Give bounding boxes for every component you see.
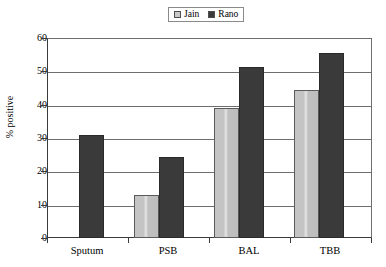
bar-bal-jain [214,108,239,238]
bars-layer [47,38,372,238]
bar-tbb-jain [294,90,319,238]
bar-tbb-rano [319,53,344,238]
bar-chart: Jain Rano % positive 60 50 40 30 20 10 0 [0,0,386,267]
x-tick-mark-3 [290,238,291,243]
x-axis-ticks [47,238,372,244]
legend-swatch-rano-icon [208,11,215,18]
legend-item-jain: Jain [174,10,199,20]
x-label-bal: BAL [204,245,294,257]
legend-swatch-jain-icon [174,11,181,18]
legend-label-rano: Rano [218,10,238,20]
bar-psb-jain [134,195,159,238]
x-tick-mark-4 [371,238,372,243]
chart-legend: Jain Rano [168,7,244,22]
x-label-psb: PSB [123,245,213,257]
bar-psb-rano [159,157,184,238]
x-label-sputum: Sputum [42,245,132,257]
x-tick-mark-1 [128,238,129,243]
x-tick-mark-2 [209,238,210,243]
y-axis: 60 50 40 30 20 10 0 [0,38,47,238]
legend-label-jain: Jain [184,10,199,20]
x-axis-labels: Sputum PSB BAL TBB [47,245,372,263]
x-tick-mark-0 [47,238,48,243]
x-label-tbb: TBB [285,245,375,257]
bar-bal-rano [239,67,264,238]
bar-sputum-rano [79,135,104,238]
legend-item-rano: Rano [208,10,238,20]
